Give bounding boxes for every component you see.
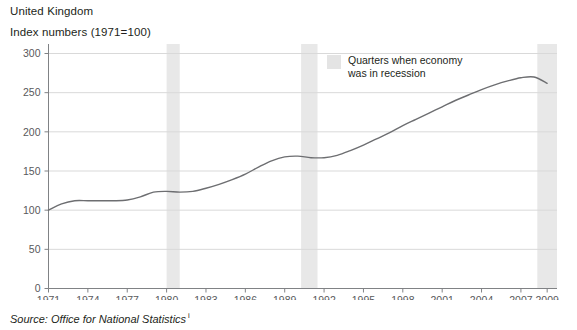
chart-plot-area: 050100150200250300 197119741977198019831… [0, 44, 577, 300]
y-axis-tick-label: 250 [23, 86, 41, 98]
y-axis-ticks-group: 050100150200250300 [23, 47, 49, 294]
y-axis-tick-label: 200 [23, 126, 41, 138]
x-axis-tick-label: 1980 [155, 294, 179, 301]
x-axis-tick-label: 2004 [470, 294, 494, 301]
chart-page: United Kingdom Index numbers (1971=100) … [0, 0, 577, 330]
recession-band [301, 44, 317, 289]
legend-label: Quarters when economy was in recession [348, 54, 462, 79]
x-axis-tick-label: 1995 [352, 294, 376, 301]
chart-legend: Quarters when economy was in recession [327, 54, 462, 79]
recession-band [167, 44, 180, 289]
source-text: Source: Office for National Statistics [10, 313, 186, 325]
y-axis-tick-label: 50 [29, 243, 41, 255]
x-axis-tick-label: 1992 [312, 294, 336, 301]
line-chart-svg: 050100150200250300 197119741977198019831… [0, 44, 577, 300]
x-axis-tick-label: 2009 [535, 294, 559, 301]
x-axis-ticks-group: 1971197419771980198319861989199219951998… [37, 289, 559, 301]
x-axis-tick-label: 2001 [430, 294, 454, 301]
y-axis-tick-label: 100 [23, 204, 41, 216]
series-line [49, 77, 548, 211]
x-axis-tick-label: 1971 [37, 294, 61, 301]
x-axis-tick-label: 1986 [234, 294, 258, 301]
source-note: Source: Office for National Statisticsi [10, 311, 190, 325]
recession-band [537, 44, 557, 289]
y-axis-tick-label: 300 [23, 47, 41, 59]
x-axis-tick-label: 1998 [391, 294, 415, 301]
y-axis-tick-label: 150 [23, 165, 41, 177]
recession-bands-group [167, 44, 557, 289]
source-footnote-marker: i [188, 311, 190, 320]
x-axis-tick-label: 1977 [116, 294, 140, 301]
data-series-group [49, 77, 548, 211]
recession-swatch-icon [327, 55, 341, 69]
x-axis-tick-label: 2007 [509, 294, 533, 301]
x-axis-tick-label: 1974 [76, 294, 100, 301]
chart-subtitle: Index numbers (1971=100) [10, 26, 151, 38]
x-axis-tick-label: 1983 [194, 294, 218, 301]
y-axis-tick-label: 0 [35, 282, 41, 294]
x-axis-tick-label: 1989 [273, 294, 297, 301]
page-title: United Kingdom [10, 5, 93, 17]
